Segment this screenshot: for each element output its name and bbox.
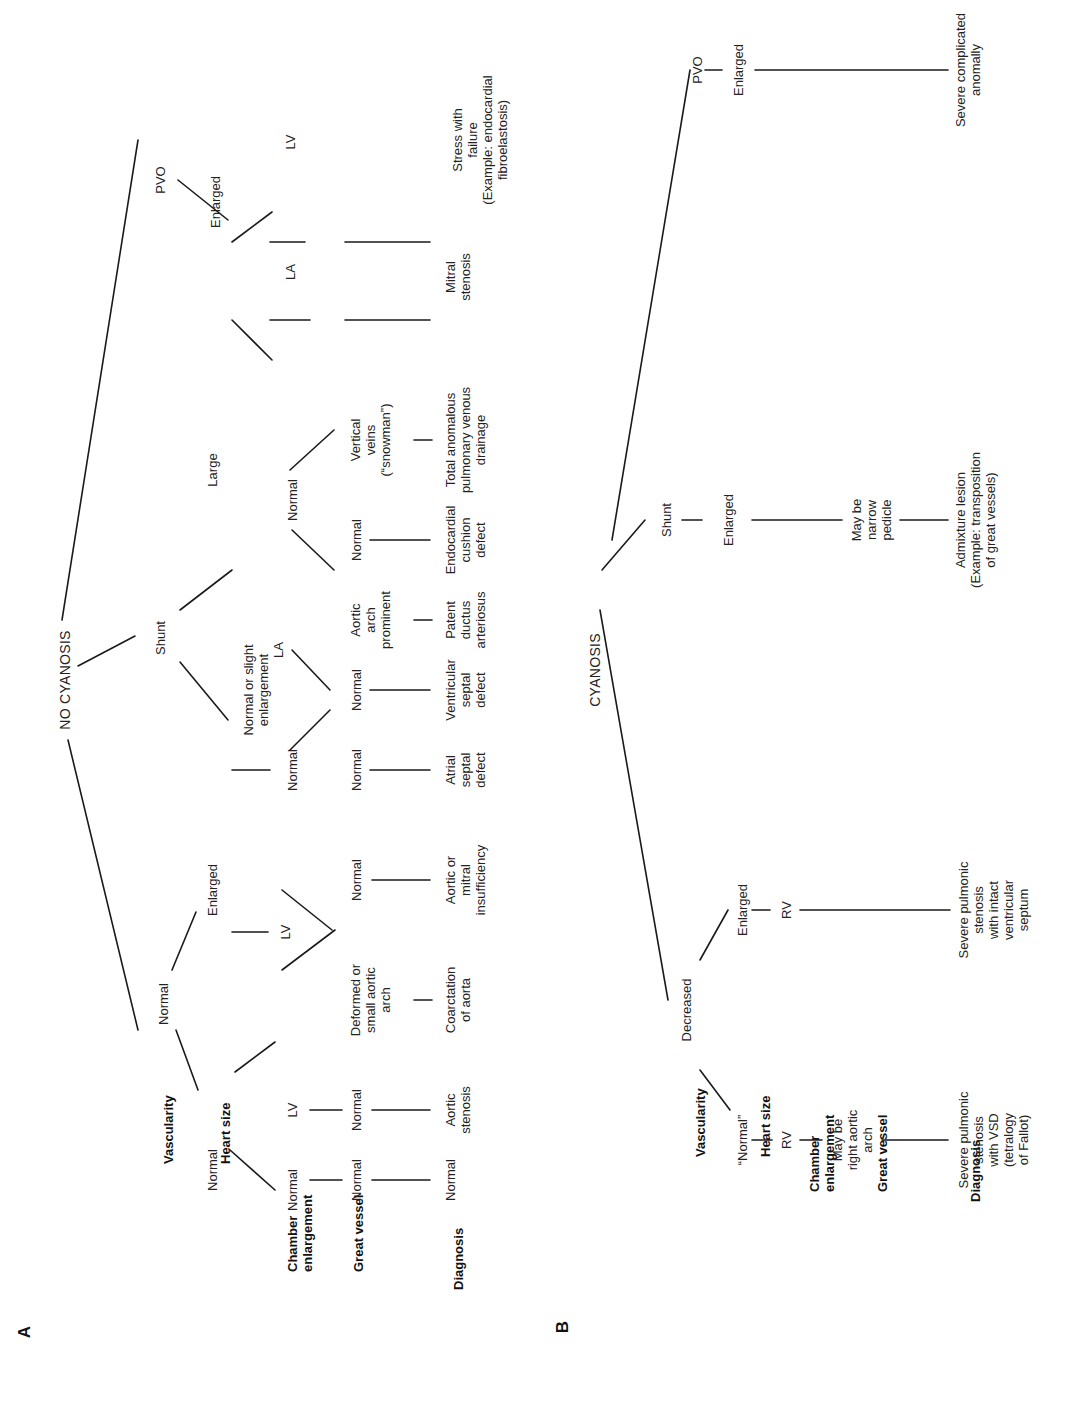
node-vessel-deformed-arch: Deformed or small aortic arch — [348, 964, 393, 1036]
node-heart-normal: Normal — [205, 1149, 220, 1191]
node-chamber-normal: Normal — [285, 1169, 300, 1211]
node-vascularity-shunt: Shunt — [153, 621, 168, 655]
node-chamber-normal-asd: Normal — [285, 749, 300, 791]
node-b-heart-enlarged-3: Enlarged — [731, 44, 746, 96]
node-vessel-normal-2: Normal — [349, 1089, 364, 1131]
row-label-diagnosis: Diagnosis — [451, 1228, 466, 1290]
node-heart-large: Large — [205, 453, 220, 486]
node-vessel-normal-5: Normal — [349, 669, 364, 711]
node-b-vascularity-shunt: Shunt — [659, 503, 674, 537]
node-vessel-normal-1: Normal — [349, 1159, 364, 1201]
node-vessel-normal-4: Normal — [349, 749, 364, 791]
node-vessel-normal-6: Normal — [349, 519, 364, 561]
node-chamber-lv-enlarged: LV — [278, 925, 293, 940]
row-label-vascularity: Vascularity — [161, 1095, 176, 1164]
row-label-great-vessel: Great vessel — [351, 1195, 366, 1272]
node-cyanosis: CYANOSIS — [588, 633, 603, 707]
node-b-vascularity-decreased: Decreased — [679, 979, 694, 1042]
node-vessel-aortic-arch-prominent: Aortic arch prominent — [348, 591, 393, 649]
row-label-vascularity-b: Vascularity — [693, 1088, 708, 1157]
dx-coarctation-of-aorta: Coarctation of aorta — [443, 967, 473, 1033]
dx-aortic-mitral-insufficiency: Aortic or mitral insufficiency — [443, 845, 488, 916]
node-vessel-normal-3: Normal — [349, 859, 364, 901]
dx-pulmonic-stenosis-intact-septum: Severe pulmonic stenosis with intact ven… — [956, 862, 1031, 959]
panel-b-letter: B — [553, 1321, 573, 1333]
panel-a-letter: A — [15, 1326, 35, 1338]
node-chamber-normal-large: Normal — [285, 479, 300, 521]
node-b-vascularity-pvo: PVO — [690, 56, 705, 83]
dx-endocardial-cushion-defect: Endocardial cushion defect — [443, 506, 488, 575]
dx-total-anomalous-pulmonary-venous-drainage: Total anomalous pulmonary venous drainag… — [443, 387, 488, 493]
node-b-vessel-narrow-pedicle: May be narrow pedicle — [849, 499, 894, 542]
node-b-chamber-rv-1: RV — [779, 1131, 794, 1149]
row-label-heart-size: Heart size — [218, 1103, 233, 1164]
tree-connector-lines — [0, 0, 1078, 1402]
dx-mitral-stenosis: Mitral stenosis — [443, 253, 473, 301]
node-heart-normal-or-slight: Normal or slight enlargement — [241, 644, 271, 735]
node-b-chamber-rv-2: RV — [779, 901, 794, 919]
dx-aortic-stenosis: Aortic stenosis — [443, 1086, 473, 1134]
dx-normal: Normal — [443, 1159, 458, 1201]
dx-tetralogy-of-fallot: Severe pulmonic stenosis with VSD (tetra… — [956, 1092, 1031, 1189]
row-label-heart-size-b: Heart size — [758, 1096, 773, 1157]
node-heart-enlarged: Enlarged — [205, 864, 220, 916]
row-label-great-vessel-b: Great vessel — [875, 1115, 890, 1192]
node-b-heart-normal-quoted: “Normal” — [735, 1115, 750, 1166]
node-b-vessel-right-aortic-arch: May be right aortic arch — [830, 1110, 875, 1171]
node-b-heart-enlarged-2: Enlarged — [721, 494, 736, 546]
dx-stress-with-failure: Stress with failure (Example: endocardia… — [450, 75, 510, 204]
node-no-cyanosis: NO CYANOSIS — [58, 630, 73, 730]
node-chamber-lv: LV — [285, 1103, 300, 1118]
node-chamber-la: LA — [271, 642, 286, 658]
node-vascularity-pvo: PVO — [153, 166, 168, 193]
node-heart-enlarged-pvo: Enlarged — [208, 176, 223, 228]
dx-severe-complicated-anomaly: Severe complicated anomally — [953, 13, 983, 127]
dx-atrial-septal-defect: Atrial septal defect — [443, 752, 488, 787]
node-vascularity-normal: Normal — [156, 983, 171, 1025]
dx-ventricular-septal-defect: Ventricular septal defect — [443, 659, 488, 720]
node-chamber-la-pvo: LA — [283, 264, 298, 280]
decision-tree-figure: A Vascularity Heart size Chamber enlarge… — [0, 0, 1078, 1402]
node-chamber-lv-pvo: LV — [283, 135, 298, 150]
dx-patent-ductus-arteriosus: Patent ductus arteriosus — [443, 591, 488, 648]
node-b-heart-enlarged-1: Enlarged — [735, 884, 750, 936]
node-vessel-vertical-veins: Vertical veins (“snowman”) — [348, 404, 393, 477]
dx-admixture-lesion: Admixture lesion (Example: transposition… — [953, 452, 998, 588]
